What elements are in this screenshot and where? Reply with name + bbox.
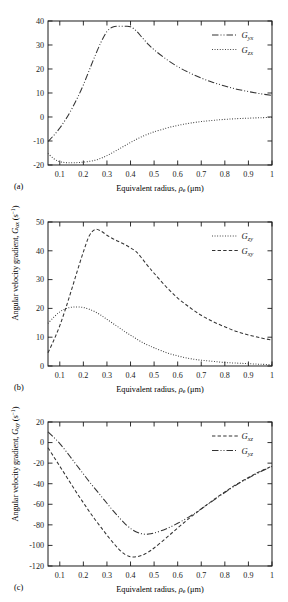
- curve-g-zy: [48, 307, 272, 365]
- x-tick-label: 0.4: [125, 371, 135, 380]
- axes-frame: [48, 21, 272, 165]
- x-tick-label: 0.3: [102, 571, 112, 580]
- x-axis-label-text: Equivalent radius, ρe (μm): [116, 184, 204, 193]
- x-tick-label: 0.9: [243, 371, 253, 380]
- y-tick-label: 20: [36, 304, 44, 313]
- legend-label: Gxy: [241, 245, 253, 256]
- panel-b: 0.10.20.30.40.50.60.70.80.9101020304050G…: [0, 201, 288, 402]
- x-tick-label: 0.7: [196, 371, 206, 380]
- y-tick-label: -100: [29, 542, 44, 551]
- legend-label: Gyz: [241, 446, 253, 457]
- plot-area: 0.10.20.30.40.50.60.70.80.91-120-100-80-…: [0, 401, 288, 602]
- panel-tag: (a): [14, 182, 23, 191]
- x-tick-label: 0.8: [220, 170, 230, 179]
- y-tick-label: 20: [36, 418, 44, 427]
- x-tick-label: 0.5: [149, 571, 159, 580]
- y-tick-label: 0: [40, 439, 44, 448]
- curve-g-xz: [48, 448, 272, 557]
- y-tick-label: -20: [33, 459, 44, 468]
- x-tick-label: 0.9: [243, 571, 253, 580]
- axes-frame: [48, 222, 272, 366]
- x-axis-label: Equivalent radius, ρe (μm): [45, 585, 275, 594]
- x-tick-label: 1: [270, 170, 274, 179]
- x-tick-label: 0.7: [196, 571, 206, 580]
- y-tick-label: -120: [29, 562, 44, 571]
- panel-tag: (b): [14, 383, 24, 392]
- x-tick-label: 0.2: [78, 170, 88, 179]
- x-axis-label: Equivalent radius, ρe (μm): [45, 385, 275, 394]
- x-axis-label: Equivalent radius, ρe (μm): [45, 184, 275, 193]
- y-tick-label: 10: [36, 89, 44, 98]
- x-tick-label: 0.6: [173, 371, 183, 380]
- y-tick-label: -40: [33, 480, 44, 489]
- x-tick-label: 0.1: [55, 571, 65, 580]
- panel-tag: (c): [14, 583, 23, 592]
- x-tick-label: 1: [270, 371, 274, 380]
- panel-a: 0.10.20.30.40.50.60.70.80.91-20-10010203…: [0, 0, 288, 201]
- y-tick-label: 50: [36, 218, 44, 227]
- y-tick-label: 30: [36, 275, 44, 284]
- y-tick-label: 20: [36, 65, 44, 74]
- x-tick-label: 0.3: [102, 371, 112, 380]
- legend-label: Gzy: [241, 231, 253, 242]
- plot-area: 0.10.20.30.40.50.60.70.80.9101020304050G…: [0, 201, 288, 402]
- x-tick-label: 0.3: [102, 170, 112, 179]
- x-tick-label: 0.2: [78, 371, 88, 380]
- x-axis-label-text: Equivalent radius, ρe (μm): [116, 585, 204, 594]
- axes-frame: [48, 422, 272, 566]
- x-tick-label: 0.2: [78, 571, 88, 580]
- y-tick-label: -20: [33, 161, 44, 170]
- y-tick-label: 40: [36, 246, 44, 255]
- figure-angular-velocity-gradients: 0.10.20.30.40.50.60.70.80.91-20-10010203…: [0, 0, 288, 602]
- x-tick-label: 0.1: [55, 371, 65, 380]
- y-tick-label: -10: [33, 137, 44, 146]
- curve-g-xy: [48, 229, 272, 352]
- curve-g-yx: [48, 26, 272, 141]
- y-tick-label: 0: [40, 113, 44, 122]
- x-tick-label: 0.6: [173, 170, 183, 179]
- x-tick-label: 1: [270, 571, 274, 580]
- x-tick-label: 0.5: [149, 170, 159, 179]
- x-tick-label: 0.4: [125, 170, 135, 179]
- x-tick-label: 0.4: [125, 571, 135, 580]
- x-tick-label: 0.1: [55, 170, 65, 179]
- x-tick-label: 0.6: [173, 571, 183, 580]
- y-tick-label: -80: [33, 521, 44, 530]
- curve-g-zx: [48, 117, 272, 162]
- x-axis-label-text: Equivalent radius, ρe (μm): [116, 385, 204, 394]
- legend-label: Gxz: [241, 432, 253, 443]
- x-tick-label: 0.5: [149, 371, 159, 380]
- legend-label: Gyx: [241, 30, 253, 41]
- x-tick-label: 0.7: [196, 170, 206, 179]
- x-tick-label: 0.9: [243, 170, 253, 179]
- plot-area: 0.10.20.30.40.50.60.70.80.91-20-10010203…: [0, 0, 288, 201]
- x-tick-label: 0.8: [220, 571, 230, 580]
- panel-c: 0.10.20.30.40.50.60.70.80.91-120-100-80-…: [0, 401, 288, 602]
- y-tick-label: 40: [36, 17, 44, 26]
- x-tick-label: 0.8: [220, 371, 230, 380]
- y-tick-label: 30: [36, 41, 44, 50]
- y-tick-label: -60: [33, 500, 44, 509]
- legend-label: Gzx: [241, 45, 253, 56]
- y-tick-label: 0: [40, 362, 44, 371]
- y-tick-label: 10: [36, 333, 44, 342]
